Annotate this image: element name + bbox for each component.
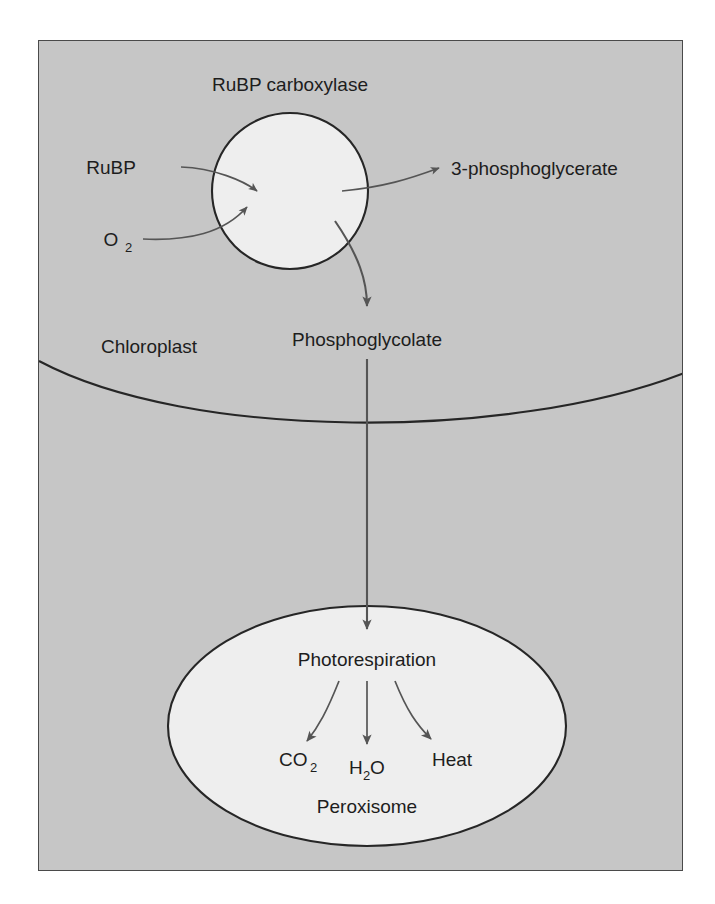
rubp-label: RuBP: [86, 157, 136, 178]
chloroplast-membrane: [39, 361, 683, 423]
co2-label-subscript: 2: [310, 760, 317, 775]
pga-label: 3-phosphoglycerate: [451, 158, 618, 179]
o2-label-main: O: [104, 229, 119, 250]
diagram-canvas: RuBP carboxylase RuBP O 2 3-phosphoglyce…: [39, 41, 683, 871]
enzyme-title-label: RuBP carboxylase: [212, 74, 368, 95]
co2-label-main: CO: [279, 749, 308, 770]
figure-root: RuBP carboxylase RuBP O 2 3-phosphoglyce…: [0, 0, 715, 904]
peroxisome-label: Peroxisome: [317, 796, 417, 817]
o2-label: O 2: [104, 229, 133, 255]
h2o-label-h: H: [349, 757, 363, 778]
diagram-panel: RuBP carboxylase RuBP O 2 3-phosphoglyce…: [38, 40, 683, 871]
photorespiration-label: Photorespiration: [298, 649, 436, 670]
chloroplast-label: Chloroplast: [101, 336, 198, 357]
heat-label: Heat: [432, 749, 473, 770]
phosphoglycolate-label: Phosphoglycolate: [292, 329, 442, 350]
h2o-label-o: O: [370, 757, 385, 778]
o2-label-subscript: 2: [125, 240, 132, 255]
